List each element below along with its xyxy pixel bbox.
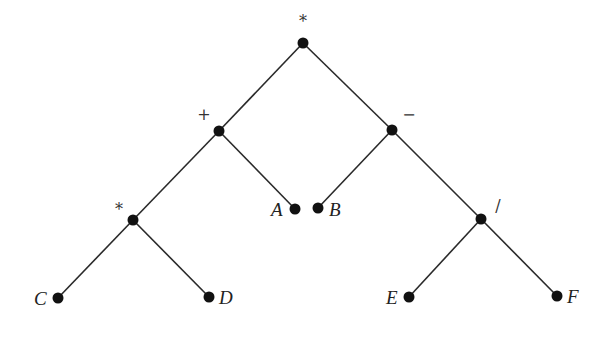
node-div — [476, 214, 487, 225]
node-plus — [214, 126, 225, 137]
node-C — [53, 293, 64, 304]
node-root — [298, 38, 309, 49]
edge-div-F — [481, 219, 557, 296]
node-F — [552, 291, 563, 302]
node-times2 — [128, 215, 139, 226]
leaf-label-C: C — [34, 288, 47, 309]
tree-labels: *+−*AB/CDEF — [34, 12, 579, 309]
operator-label-times2: * — [115, 200, 123, 219]
leaf-label-D: D — [218, 287, 233, 308]
leaf-label-E: E — [385, 287, 398, 308]
edge-minus-B — [318, 130, 392, 208]
edge-plus-times2 — [133, 131, 219, 220]
edge-div-E — [409, 219, 481, 297]
node-A — [290, 204, 301, 215]
operator-label-plus: + — [197, 105, 210, 124]
operator-label-root: * — [299, 12, 307, 31]
leaf-label-A: A — [269, 199, 283, 220]
edge-times2-C — [58, 220, 133, 298]
edge-plus-A — [219, 131, 295, 209]
tree-edges — [58, 43, 557, 298]
edge-root-minus — [303, 43, 392, 130]
edge-times2-D — [133, 220, 209, 297]
leaf-label-B: B — [329, 199, 341, 220]
edge-minus-div — [392, 130, 481, 219]
node-B — [313, 203, 324, 214]
expression-tree-diagram: *+−*AB/CDEF — [0, 0, 601, 339]
operator-label-minus: − — [402, 105, 415, 124]
edge-root-plus — [219, 43, 303, 131]
leaf-label-F: F — [566, 286, 579, 307]
operator-label-div: / — [495, 196, 501, 215]
node-minus — [387, 125, 398, 136]
node-D — [204, 292, 215, 303]
node-E — [404, 292, 415, 303]
tree-nodes — [53, 38, 563, 304]
